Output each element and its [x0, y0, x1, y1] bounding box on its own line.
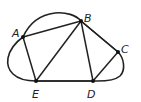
label-C: C	[121, 43, 129, 56]
label-A: A	[11, 27, 20, 40]
vertex-B	[79, 19, 83, 23]
vertex-E	[34, 79, 38, 83]
vertices	[21, 19, 120, 83]
edge-D-C	[93, 52, 118, 81]
label-E: E	[32, 88, 39, 101]
edges	[23, 21, 118, 81]
vertex-C	[116, 50, 120, 54]
vertex-D	[91, 79, 95, 83]
graph-diagram: A B C D E	[0, 0, 141, 102]
edge-A-E	[23, 37, 36, 81]
boundary-curve	[8, 13, 124, 81]
label-B: B	[84, 12, 92, 25]
vertex-A	[21, 35, 25, 39]
edge-E-B	[36, 21, 81, 81]
label-D: D	[87, 88, 95, 101]
